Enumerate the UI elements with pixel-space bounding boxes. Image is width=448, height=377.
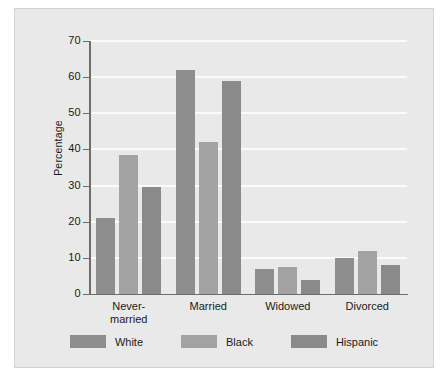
legend-item-hispanic: Hispanic	[291, 335, 378, 348]
legend-item-white: White	[70, 335, 143, 348]
legend-item-black: Black	[181, 335, 253, 348]
plot-area	[89, 41, 407, 294]
bar-white-married	[176, 70, 195, 294]
x-axis-category-label: Married	[169, 300, 249, 313]
gridline	[89, 40, 407, 42]
bar-white-never-married	[96, 218, 115, 294]
x-axis-category-label: Never-married	[89, 300, 169, 326]
legend-swatch-icon	[291, 335, 327, 348]
x-axis-label-line: Widowed	[248, 300, 328, 313]
bar-hispanic-divorced	[381, 265, 400, 294]
bar-black-widowed	[278, 267, 297, 294]
y-axis-tick	[83, 113, 90, 114]
y-axis-tick	[83, 222, 90, 223]
x-axis-label-line: married	[89, 313, 169, 326]
bar-hispanic-married	[222, 81, 241, 294]
bar-hispanic-widowed	[301, 280, 320, 294]
bar-white-divorced	[335, 258, 354, 294]
bar-white-widowed	[255, 269, 274, 294]
y-axis-tick-label: 70	[55, 34, 81, 46]
legend-label: Hispanic	[336, 336, 378, 348]
y-axis-tick-label: 60	[55, 70, 81, 82]
chart-legend: WhiteBlackHispanic	[15, 335, 433, 348]
x-axis-category-label: Widowed	[248, 300, 328, 313]
x-axis-label-line: Never-	[89, 300, 169, 313]
gridline	[89, 148, 407, 150]
legend-label: Black	[226, 336, 253, 348]
x-axis-label-line: Divorced	[328, 300, 408, 313]
y-axis-tick	[83, 186, 90, 187]
y-axis-tick-label: 10	[55, 251, 81, 263]
gridline	[89, 112, 407, 114]
legend-label: White	[115, 336, 143, 348]
y-axis-tick-label: 20	[55, 215, 81, 227]
x-axis-label-line: Married	[169, 300, 249, 313]
x-axis-category-label: Divorced	[328, 300, 408, 313]
legend-swatch-icon	[181, 335, 217, 348]
chart-figure: 010203040506070 Percentage WhiteBlackHis…	[14, 8, 434, 368]
bar-black-divorced	[358, 251, 377, 294]
y-axis-tick	[83, 77, 90, 78]
legend-swatch-icon	[70, 335, 106, 348]
y-axis-tick	[83, 41, 90, 42]
gridline	[89, 76, 407, 78]
y-axis-tick	[83, 149, 90, 150]
bar-hispanic-never-married	[142, 187, 161, 294]
y-axis-tick	[83, 294, 90, 295]
y-axis-tick	[83, 258, 90, 259]
bar-black-never-married	[119, 155, 138, 294]
y-axis-title: Percentage	[52, 88, 64, 208]
bar-black-married	[199, 142, 218, 294]
y-axis-tick-label: 0	[55, 287, 81, 299]
x-axis-line	[89, 294, 408, 295]
